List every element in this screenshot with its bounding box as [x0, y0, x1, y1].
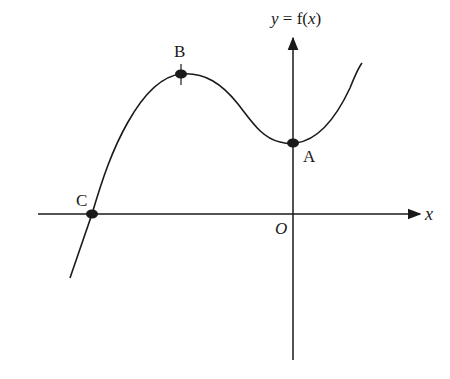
- point-b-label: B: [174, 42, 185, 61]
- x-axis-label: x: [424, 204, 433, 224]
- graph-title: y = f(x): [269, 9, 321, 28]
- point-b-marker: [175, 70, 187, 79]
- title-eq: = f(: [279, 9, 309, 28]
- point-a-marker: [287, 139, 299, 148]
- function-curve: [70, 63, 362, 278]
- point-c-marker: [86, 210, 98, 219]
- point-c-label: C: [76, 191, 87, 210]
- function-graph: B A C O x y = f(x): [0, 0, 450, 379]
- point-a-label: A: [303, 147, 316, 166]
- title-y: y: [269, 9, 279, 28]
- title-close: ): [316, 9, 322, 28]
- origin-label: O: [275, 219, 287, 238]
